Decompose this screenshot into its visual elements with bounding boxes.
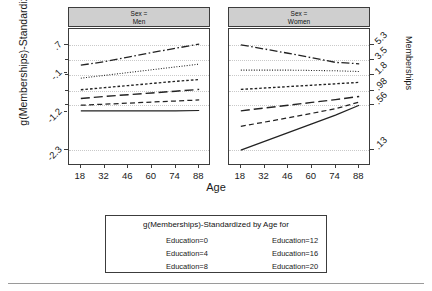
y-tick-mark xyxy=(64,72,67,73)
y-tick-mark xyxy=(64,111,67,112)
y2-tick-mark xyxy=(370,149,374,150)
series-line-education-16 xyxy=(81,64,199,78)
y2-tick-mark xyxy=(370,59,374,60)
x-tick-mark xyxy=(104,165,105,168)
series-line-education-16 xyxy=(241,70,359,71)
y2-tick-label: .13 xyxy=(372,116,408,152)
x-axis-title: Age xyxy=(166,181,266,193)
series-layer xyxy=(69,29,210,165)
y-minor-tick xyxy=(65,59,68,60)
strip-women-line1: Sex = xyxy=(291,10,308,17)
y2-tick-mark xyxy=(370,104,374,105)
y-minor-tick xyxy=(65,149,68,150)
plot-panel-men xyxy=(68,28,210,165)
x-tick-label: 46 xyxy=(275,170,299,181)
x-tick-mark xyxy=(287,165,288,168)
panel-strip-men: Sex = Men xyxy=(68,7,210,27)
x-tick-mark xyxy=(80,165,81,168)
legend-entry: Education=4 xyxy=(116,247,208,259)
strip-women-line2: Women xyxy=(229,18,369,26)
y2-tick-mark xyxy=(370,44,374,45)
series-line-education-8 xyxy=(81,89,199,98)
y-minor-tick xyxy=(65,90,68,91)
x-tick-label: 74 xyxy=(163,170,187,181)
x-tick-mark xyxy=(151,165,152,168)
chart-figure: g(Memberships)-Standardized Memberships … xyxy=(0,0,432,291)
x-tick-label: 60 xyxy=(299,170,323,181)
series-line-education-12 xyxy=(81,80,199,90)
legend-entry: Education=0 xyxy=(116,234,208,246)
series-line-education-20 xyxy=(81,44,199,65)
y-minor-tick xyxy=(65,44,68,45)
x-tick-mark xyxy=(240,165,241,168)
series-line-education-4 xyxy=(81,100,199,105)
legend-entry-label: Education=20 xyxy=(272,262,318,271)
x-tick-label: 18 xyxy=(68,170,92,181)
legend-title: g(Memberships)-Standardized by Age for xyxy=(106,220,326,229)
series-layer xyxy=(229,29,370,165)
legend-entry-label: Education=16 xyxy=(272,249,318,258)
x-tick-mark xyxy=(175,165,176,168)
x-tick-label: 18 xyxy=(228,170,252,181)
x-tick-label: 46 xyxy=(115,170,139,181)
x-tick-mark xyxy=(358,165,359,168)
x-tick-mark xyxy=(127,165,128,168)
series-line-education-20 xyxy=(241,45,359,64)
series-line-education-4 xyxy=(241,102,359,126)
x-tick-mark xyxy=(198,165,199,168)
chart-legend: g(Memberships)-Standardized by Age for E… xyxy=(105,215,327,273)
series-line-education-12 xyxy=(241,82,359,89)
plot-panel-women xyxy=(228,28,370,165)
y2-tick-mark xyxy=(370,90,374,91)
legend-entry: Education=12 xyxy=(222,234,318,246)
x-tick-mark xyxy=(264,165,265,168)
legend-entry: Education=16 xyxy=(222,247,318,259)
x-tick-label: 88 xyxy=(186,170,210,181)
x-tick-mark xyxy=(335,165,336,168)
y-minor-tick xyxy=(65,74,68,75)
strip-men-line2: Men xyxy=(69,18,209,26)
footer-divider xyxy=(8,283,424,284)
strip-men-line1: Sex = xyxy=(131,10,148,17)
legend-entry: Education=8 xyxy=(116,260,208,272)
legend-entry-label: Education=12 xyxy=(272,236,318,245)
panel-strip-women: Sex = Women xyxy=(228,7,370,27)
x-tick-label: 32 xyxy=(92,170,116,181)
legend-entry-label: Education=8 xyxy=(166,262,208,271)
x-tick-label: 32 xyxy=(252,170,276,181)
y2-tick-mark xyxy=(370,74,374,75)
legend-entry: Education=20 xyxy=(222,260,318,272)
series-line-education-0 xyxy=(241,105,359,150)
legend-entry-label: Education=4 xyxy=(166,249,208,258)
y-minor-tick xyxy=(65,104,68,105)
x-tick-label: 74 xyxy=(323,170,347,181)
series-line-education-8 xyxy=(241,96,359,110)
x-tick-mark xyxy=(311,165,312,168)
x-tick-label: 60 xyxy=(139,170,163,181)
legend-entry-label: Education=0 xyxy=(166,236,208,245)
x-tick-label: 88 xyxy=(346,170,370,181)
